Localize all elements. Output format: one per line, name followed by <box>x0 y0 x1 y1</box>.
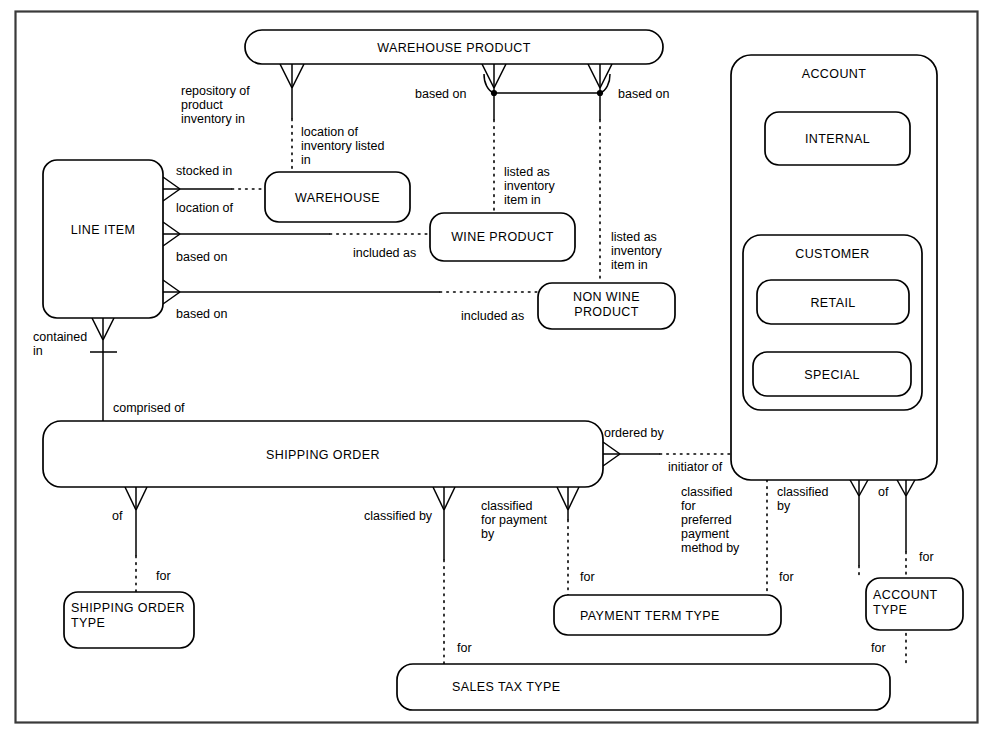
entity-line-item[interactable] <box>43 160 163 318</box>
rel-label-included-as-2: included as <box>461 309 524 323</box>
entity-label-line-item: LINE ITEM <box>71 223 136 237</box>
rel-label-included-as-1: included as <box>353 246 416 260</box>
rel-label-for-shipping-order-type: for <box>156 569 171 583</box>
diagram-canvas: WAREHOUSE PRODUCT LINE ITEM WAREHOUSE WI… <box>0 0 992 743</box>
rel-label-listed-as-inventory-a-line3: item in <box>504 193 541 207</box>
rel-label-classified-for-payment-line2: for payment <box>481 513 548 527</box>
rel-label-of-account: of <box>878 485 889 499</box>
entity-label-shipping-order-type-line2: TYPE <box>71 616 105 630</box>
rel-label-location-of-inventory-line1: location of <box>301 125 359 139</box>
rel-label-location-of-inventory-line3: in <box>301 153 311 167</box>
rel-label-contained-in-line2: in <box>33 344 43 358</box>
entity-label-account-type-line1: ACCOUNT <box>873 588 938 602</box>
rel-label-for-sales-tax-left: for <box>457 641 472 655</box>
crowsfoot-lineitem-1 <box>163 177 180 201</box>
entity-label-shipping-order: SHIPPING ORDER <box>266 448 380 462</box>
entity-label-account: ACCOUNT <box>802 67 867 81</box>
rel-label-based-on-lineitem-1: based on <box>176 250 227 264</box>
rel-label-repository-of-line1: repository of <box>181 84 250 98</box>
entity-label-payment-term-type: PAYMENT TERM TYPE <box>580 609 720 623</box>
rel-label-classified-preferred-line1: classified <box>681 485 732 499</box>
entity-label-non-wine-product-line2: PRODUCT <box>574 305 639 319</box>
rel-label-for-sales-tax-right: for <box>871 641 886 655</box>
arc-node-right <box>597 90 603 96</box>
entity-label-retail: RETAIL <box>810 296 855 310</box>
rel-label-for-payment-term-right: for <box>779 570 794 584</box>
rel-label-classified-for-payment-line1: classified <box>481 499 532 513</box>
rel-label-comprised-of: comprised of <box>113 401 185 415</box>
rel-label-location-of: location of <box>176 201 234 215</box>
entity-label-shipping-order-type-line1: SHIPPING ORDER <box>71 601 185 615</box>
crowsfoot-shippingorder-3 <box>557 487 579 510</box>
entity-label-internal: INTERNAL <box>805 132 870 146</box>
rel-label-listed-as-inventory-b-line1: listed as <box>611 230 657 244</box>
rel-label-classified-preferred-line2: for <box>681 499 696 513</box>
rel-label-listed-as-inventory-b-line3: item in <box>611 258 648 272</box>
rel-label-for-payment-term-left: for <box>580 570 595 584</box>
crowsfoot-shippingorder-2 <box>433 487 455 510</box>
rel-label-based-on-right: based on <box>618 87 669 101</box>
entity-label-warehouse: WAREHOUSE <box>295 191 380 205</box>
rel-label-stocked-in: stocked in <box>176 164 232 178</box>
rel-label-classified-for-payment-line3: by <box>481 527 495 541</box>
crowsfoot-shippingorder-right <box>603 442 620 466</box>
rel-label-classified-by-account-line1: classified <box>777 485 828 499</box>
rel-label-based-on-lineitem-2: based on <box>176 307 227 321</box>
crowsfoot-lineitem-3 <box>163 280 180 304</box>
rel-label-ordered-by: ordered by <box>604 426 665 440</box>
crowsfoot-lineitem-2 <box>163 222 180 246</box>
entity-label-non-wine-product-line1: NON WINE <box>573 290 640 304</box>
entity-label-account-type-line2: TYPE <box>873 603 907 617</box>
entity-label-special: SPECIAL <box>804 368 860 382</box>
rel-label-listed-as-inventory-b-line2: inventory <box>611 244 662 258</box>
rel-label-classified-preferred-line5: method by <box>681 541 740 555</box>
rel-label-contained-in-line1: contained <box>33 330 87 344</box>
rel-label-classified-preferred-line4: payment <box>681 527 729 541</box>
rel-label-based-on-left: based on <box>415 87 466 101</box>
entity-label-customer: CUSTOMER <box>795 247 870 261</box>
rel-label-of-shipping-order-type: of <box>112 509 123 523</box>
arc-node-left <box>491 90 497 96</box>
er-diagram-svg: WAREHOUSE PRODUCT LINE ITEM WAREHOUSE WI… <box>0 0 992 743</box>
crowsfoot-shippingorder-1 <box>125 487 147 510</box>
rel-label-listed-as-inventory-a-line2: inventory <box>504 179 555 193</box>
crowsfoot-warehouseproduct-1 <box>280 64 304 88</box>
rel-label-repository-of-line3: inventory in <box>181 112 245 126</box>
rel-label-repository-of-line2: product <box>181 98 223 112</box>
entity-label-sales-tax-type: SALES TAX TYPE <box>452 680 560 694</box>
rel-label-listed-as-inventory-a-line1: listed as <box>504 165 550 179</box>
rel-label-initiator-of: initiator of <box>668 460 723 474</box>
rel-label-classified-by-account-line2: by <box>777 499 791 513</box>
rel-label-location-of-inventory-line2: inventory listed <box>301 139 384 153</box>
entity-label-warehouse-product: WAREHOUSE PRODUCT <box>377 41 531 55</box>
rel-label-for-account-type: for <box>919 550 934 564</box>
rel-label-classified-preferred-line3: preferred <box>681 513 732 527</box>
rel-label-classified-by-sales-tax: classified by <box>364 509 433 523</box>
entity-label-wine-product: WINE PRODUCT <box>451 230 554 244</box>
crowsfoot-lineitem-bottom <box>92 318 114 340</box>
